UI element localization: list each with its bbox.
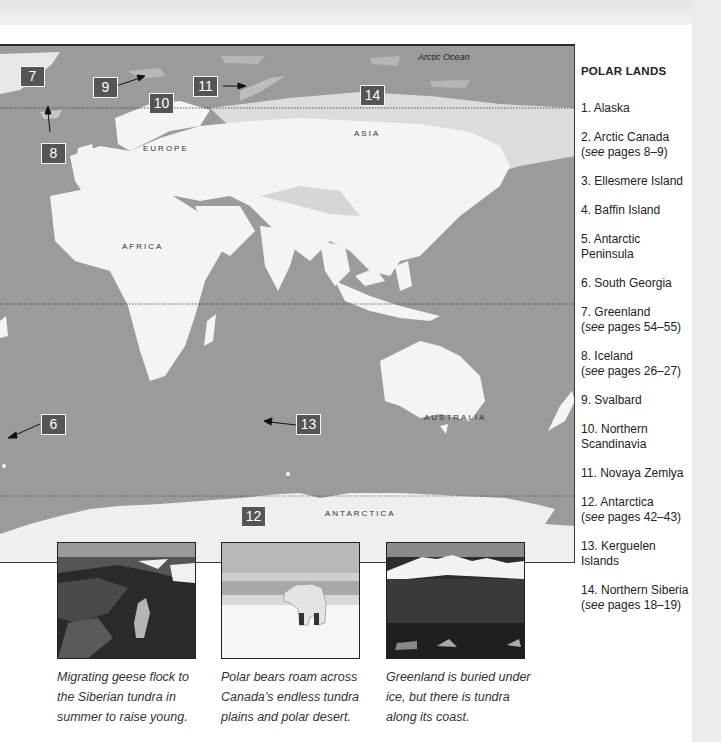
polar-lands-legend: POLAR LANDS 1. Alaska 2. Arctic Canada(s… [581,64,691,627]
legend-item: 12. Antarctica(see pages 42–43) [581,495,691,525]
africa-label: AFRICA [122,242,163,251]
caption-greenland: Greenland is buried under ice, but there… [386,667,536,727]
map-marker-13: 13 [296,414,321,435]
map-landmasses [0,46,575,563]
legend-item: 10. Northern Scandinavia [581,422,691,452]
page-right-margin [692,0,721,742]
caption-geese: Migrating geese flock to the Siberian tu… [57,667,207,727]
antarctica-label: ANTARCTICA [325,509,396,518]
legend-item: 9. Svalbard [581,393,691,408]
map-marker-10: 10 [149,93,174,114]
legend-item: 14. Northern Siberia(see pages 18–19) [581,583,691,613]
europe-label: EUROPE [143,144,189,153]
map-marker-6: 6 [41,414,66,435]
page-top-margin [0,0,721,25]
geese-photo-image [58,543,195,658]
caption-polar-bear: Polar bears roam across Canada’s endless… [221,667,371,727]
greenland-photo-image [387,543,524,658]
legend-item: 2. Arctic Canada(see pages 8–9) [581,130,691,160]
polar-bear-photo-image [222,543,359,658]
map-marker-12: 12 [241,506,266,527]
map-marker-9: 9 [93,77,118,98]
legend-item: 3. Ellesmere Island [581,174,691,189]
map-marker-14: 14 [360,85,385,106]
map-marker-11: 11 [193,76,218,97]
legend-item: 4. Baffin Island [581,203,691,218]
legend-item: 11. Novaya Zemlya [581,466,691,481]
legend-item: 7. Greenland(see pages 54–55) [581,305,691,335]
photo-polar-bear [221,542,360,659]
legend-item: 1. Alaska [581,101,691,116]
asia-label: ASIA [354,129,380,138]
legend-item: 13. Kerguelen Islands [581,539,691,569]
map-marker-8: 8 [41,143,66,164]
world-map: Arctic Ocean EUROPE ASIA AFRICA AUSTRALI… [0,44,575,563]
legend-item: 5. Antarctic Peninsula [581,232,691,262]
map-marker-7: 7 [20,66,45,87]
legend-title: POLAR LANDS [581,64,691,79]
legend-item: 8. Iceland(see pages 26–27) [581,349,691,379]
australia-label: AUSTRALIA [424,413,486,422]
photo-greenland [386,542,525,659]
legend-item: 6. South Georgia [581,276,691,291]
photo-geese [57,542,196,659]
arctic-ocean-label: Arctic Ocean [418,52,470,62]
